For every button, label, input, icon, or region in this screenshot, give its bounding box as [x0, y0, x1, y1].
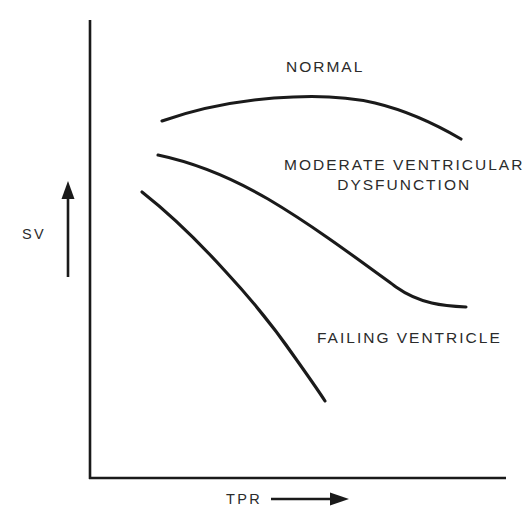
curve-label-normal: NORMAL — [286, 57, 364, 77]
sv-up-arrow-icon — [62, 181, 75, 277]
ventricular-function-chart: NORMAL MODERATE VENTRICULARDYSFUNCTION F… — [0, 0, 532, 515]
curve-label-moderate-dysfunction: MODERATE VENTRICULARDYSFUNCTION — [284, 155, 524, 195]
curve-label-failing-ventricle: FAILING VENTRICLE — [317, 328, 502, 348]
x-axis-label: TPR — [226, 491, 262, 507]
curve-failing-ventricle — [142, 192, 325, 401]
chart-canvas — [0, 0, 532, 515]
curve-normal — [162, 96, 461, 139]
curve-label-moderate-line1: MODERATE VENTRICULAR — [284, 156, 524, 173]
curve-label-moderate-line2: DYSFUNCTION — [284, 175, 524, 195]
y-axis-label: SV — [22, 226, 46, 242]
axes-group — [89, 20, 506, 479]
tpr-right-arrow-icon — [271, 493, 349, 506]
